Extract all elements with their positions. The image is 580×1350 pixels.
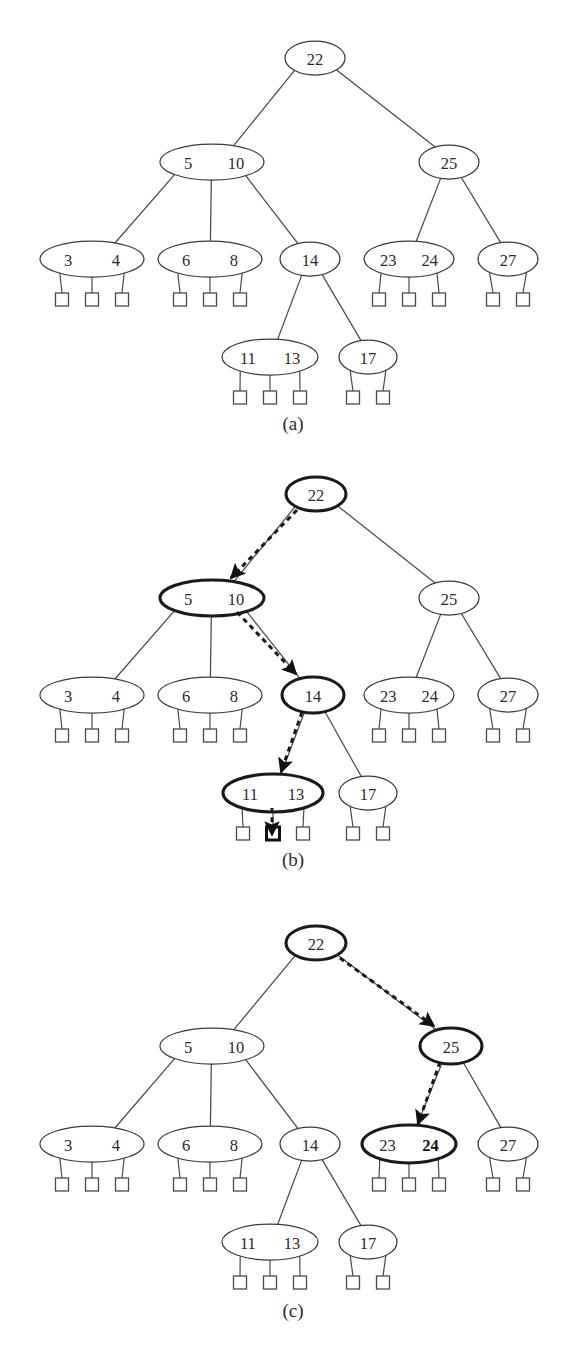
tree-node[interactable]: 17 bbox=[339, 776, 397, 840]
leaf-square[interactable] bbox=[204, 729, 217, 742]
leaf-square[interactable] bbox=[294, 1276, 307, 1289]
tree-node[interactable]: 14 bbox=[280, 242, 340, 276]
leaf-square[interactable] bbox=[377, 391, 390, 404]
leaf-square[interactable] bbox=[373, 293, 386, 306]
leaf-square[interactable] bbox=[116, 293, 129, 306]
leaf-square[interactable] bbox=[234, 729, 247, 742]
leaf-square[interactable] bbox=[56, 1178, 69, 1191]
node-ellipse[interactable] bbox=[158, 241, 262, 277]
leaf-square[interactable] bbox=[116, 729, 129, 742]
tree-node[interactable]: 25 bbox=[419, 581, 479, 615]
leaf-square[interactable] bbox=[403, 293, 416, 306]
leaf-square[interactable] bbox=[347, 827, 360, 840]
leaf-connector bbox=[303, 807, 304, 827]
leaf-connector bbox=[437, 708, 439, 729]
tree-node[interactable]: 17 bbox=[339, 340, 397, 404]
node-ellipse[interactable] bbox=[160, 1028, 264, 1064]
tree-node[interactable]: 22 bbox=[286, 926, 346, 960]
leaf-square[interactable] bbox=[237, 827, 250, 840]
leaf-square[interactable] bbox=[264, 391, 277, 404]
leaf-connector bbox=[122, 1157, 124, 1178]
node-ellipse[interactable] bbox=[40, 241, 144, 277]
tree-node[interactable]: 1113 bbox=[222, 1224, 318, 1289]
tree-node[interactable]: 27 bbox=[478, 678, 538, 742]
leaf-square[interactable] bbox=[204, 1178, 217, 1191]
node-ellipse[interactable] bbox=[158, 1126, 262, 1162]
leaf-square[interactable] bbox=[517, 729, 530, 742]
tree-node[interactable]: 25 bbox=[419, 145, 479, 179]
tree-node[interactable]: 510 bbox=[160, 144, 264, 180]
leaf-square[interactable] bbox=[116, 1178, 129, 1191]
leaf-square[interactable] bbox=[234, 1178, 247, 1191]
leaf-square[interactable] bbox=[234, 293, 247, 306]
tree-node[interactable]: 510 bbox=[160, 580, 264, 616]
node-key: 25 bbox=[441, 154, 458, 173]
leaf-square[interactable] bbox=[297, 827, 310, 840]
leaf-square[interactable] bbox=[56, 293, 69, 306]
tree-node[interactable]: 25 bbox=[420, 1028, 482, 1064]
tree-node[interactable]: 14 bbox=[280, 1127, 340, 1161]
node-ellipse-highlighted[interactable] bbox=[362, 1125, 456, 1163]
leaf-square[interactable] bbox=[377, 1276, 390, 1289]
node-ellipse[interactable] bbox=[222, 339, 318, 375]
node-ellipse[interactable] bbox=[364, 677, 454, 713]
leaf-square[interactable] bbox=[487, 729, 500, 742]
tree-node[interactable]: 27 bbox=[478, 242, 538, 306]
node-ellipse[interactable] bbox=[40, 677, 144, 713]
leaf-square[interactable] bbox=[487, 293, 500, 306]
tree-node[interactable]: 17 bbox=[339, 1225, 397, 1289]
leaf-square[interactable] bbox=[517, 1178, 530, 1191]
leaf-square[interactable] bbox=[373, 1178, 386, 1191]
node-ellipse-highlighted[interactable] bbox=[223, 774, 323, 812]
node-ellipse[interactable] bbox=[40, 1126, 144, 1162]
leaf-square[interactable] bbox=[174, 1178, 187, 1191]
node-ellipse[interactable] bbox=[222, 1224, 318, 1260]
leaf-square[interactable] bbox=[403, 1178, 416, 1191]
tree-node[interactable]: 68 bbox=[158, 677, 262, 742]
leaf-square[interactable] bbox=[174, 729, 187, 742]
node-ellipse-highlighted[interactable] bbox=[160, 580, 264, 616]
leaf-square[interactable] bbox=[264, 1276, 277, 1289]
leaf-square[interactable] bbox=[433, 1178, 446, 1191]
leaf-square[interactable] bbox=[433, 729, 446, 742]
leaf-square[interactable] bbox=[487, 1178, 500, 1191]
tree-node[interactable]: 2324 bbox=[364, 241, 454, 306]
leaf-square[interactable] bbox=[377, 827, 390, 840]
node-key: 4 bbox=[112, 687, 120, 706]
tree-node[interactable]: 22 bbox=[286, 477, 346, 511]
leaf-square[interactable] bbox=[373, 729, 386, 742]
node-ellipse[interactable] bbox=[158, 677, 262, 713]
leaf-square[interactable] bbox=[86, 293, 99, 306]
node-key: 13 bbox=[284, 1234, 301, 1253]
leaf-square[interactable] bbox=[433, 293, 446, 306]
leaf-square[interactable] bbox=[294, 391, 307, 404]
tree-edge bbox=[321, 1158, 361, 1226]
node-ellipse[interactable] bbox=[364, 241, 454, 277]
tree-node[interactable]: 34 bbox=[40, 241, 144, 306]
leaf-square[interactable] bbox=[56, 729, 69, 742]
leaf-square[interactable] bbox=[403, 729, 416, 742]
tree-node[interactable]: 22 bbox=[285, 41, 345, 75]
leaf-square[interactable] bbox=[174, 293, 187, 306]
tree-node[interactable]: 68 bbox=[158, 241, 262, 306]
leaf-square[interactable] bbox=[234, 391, 247, 404]
leaf-square[interactable] bbox=[86, 1178, 99, 1191]
leaf-square[interactable] bbox=[517, 293, 530, 306]
tree-node[interactable]: 27 bbox=[478, 1127, 538, 1191]
tree-node[interactable]: 34 bbox=[40, 677, 144, 742]
tree-node[interactable]: 14 bbox=[282, 677, 344, 713]
tree-node[interactable]: 2324 bbox=[362, 1125, 456, 1191]
leaf-square[interactable] bbox=[347, 391, 360, 404]
node-key: 14 bbox=[302, 1136, 319, 1155]
leaf-square[interactable] bbox=[86, 729, 99, 742]
tree-node[interactable]: 68 bbox=[158, 1126, 262, 1191]
search-path-arrow bbox=[418, 1062, 440, 1124]
tree-node[interactable]: 510 bbox=[160, 1028, 264, 1064]
tree-node[interactable]: 1113 bbox=[222, 339, 318, 404]
leaf-square[interactable] bbox=[234, 1276, 247, 1289]
tree-node[interactable]: 2324 bbox=[364, 677, 454, 742]
tree-node[interactable]: 34 bbox=[40, 1126, 144, 1191]
leaf-square[interactable] bbox=[204, 293, 217, 306]
node-ellipse[interactable] bbox=[160, 144, 264, 180]
leaf-square[interactable] bbox=[347, 1276, 360, 1289]
